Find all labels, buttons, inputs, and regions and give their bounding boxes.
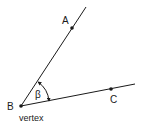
ray-ba (21, 7, 86, 106)
point-b-dot (19, 104, 23, 108)
point-c-label: C (110, 94, 117, 105)
point-a-dot (70, 26, 74, 30)
angle-diagram: A B C β vertex (0, 0, 144, 129)
vertex-caption: vertex (19, 113, 44, 123)
angle-beta-label: β (35, 89, 41, 100)
point-b-label: B (7, 101, 14, 112)
point-c-dot (109, 87, 113, 91)
point-a-label: A (62, 15, 69, 26)
